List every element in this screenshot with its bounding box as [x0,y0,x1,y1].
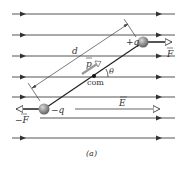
field-line-arrowheads [20,12,162,141]
separation-dimension [28,19,136,101]
force-negative-label: −F [15,115,30,125]
diagram-canvas: +q −q F −F E p d θ com (a) [0,0,190,171]
field-label: E [118,98,126,108]
positive-charge-label: +q [126,37,140,47]
dipole-in-field-figure: +q −q F −F E p d θ com (a) [0,0,190,171]
angle-label: θ [109,67,114,76]
negative-charge-ball [39,104,50,115]
dipole-moment-label: p [86,59,92,69]
center-of-mass-label: com [87,78,104,87]
separation-label: d [72,46,78,56]
negative-charge-label: −q [51,105,65,115]
angle-arc [106,69,108,77]
figure-caption: (a) [86,149,97,158]
force-positive-label: F [166,49,174,59]
